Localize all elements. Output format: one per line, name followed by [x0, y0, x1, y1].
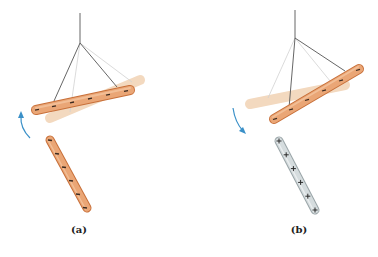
figure-canvas [0, 0, 378, 257]
panel-a [18, 13, 140, 209]
panel-b [233, 10, 360, 213]
panel-a-caption: (a) [71, 224, 87, 235]
nearby-rod-a [49, 140, 88, 209]
panel-b-caption: (b) [291, 224, 307, 235]
rotation-arrow-cw-icon [233, 108, 246, 134]
rotation-arrow-ccw-icon [18, 111, 30, 138]
nearby-rod-b [278, 141, 315, 211]
